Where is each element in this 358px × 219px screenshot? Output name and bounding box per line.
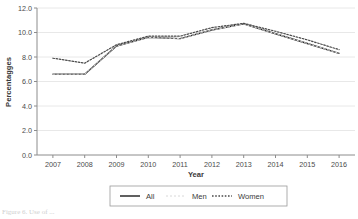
y-axis-ticks: 0.02.04.06.08.010.012.0: [18, 4, 37, 160]
y-tick-label: 12.0: [18, 4, 32, 13]
x-tick-label: 2015: [299, 160, 315, 169]
y-axis-title: Percentagges: [4, 57, 13, 107]
x-tick-label: 2008: [77, 160, 93, 169]
x-axis-ticks: 2007200820092010201120122013201420152016: [45, 155, 347, 169]
x-tick-label: 2016: [331, 160, 347, 169]
legend-label-women: Women: [238, 192, 264, 201]
x-tick-label: 2010: [140, 160, 156, 169]
x-tick-label: 2014: [268, 160, 284, 169]
y-tick-label: 0.0: [22, 151, 32, 160]
figure-caption: Figure 6. Use of ...: [2, 208, 202, 219]
figure-container: 0.02.04.06.08.010.012.0 2007200820092010…: [0, 0, 358, 219]
y-tick-label: 4.0: [22, 102, 32, 111]
x-tick-label: 2013: [236, 160, 252, 169]
legend-label-all: All: [146, 192, 155, 201]
x-tick-label: 2009: [109, 160, 125, 169]
x-axis-title: Year: [188, 170, 204, 179]
y-tick-label: 2.0: [22, 126, 32, 135]
x-tick-label: 2007: [45, 160, 61, 169]
y-tick-label: 6.0: [22, 77, 32, 86]
y-tick-label: 8.0: [22, 53, 32, 62]
legend-label-men: Men: [192, 192, 207, 201]
x-tick-label: 2012: [204, 160, 220, 169]
y-tick-label: 10.0: [18, 28, 32, 37]
line-chart: 0.02.04.06.08.010.012.0 2007200820092010…: [0, 0, 358, 219]
x-tick-label: 2011: [172, 160, 187, 169]
